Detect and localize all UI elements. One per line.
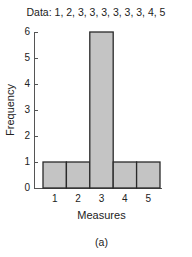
y-axis-label: Frequency	[4, 84, 16, 136]
x-tick-label: 5	[138, 193, 158, 204]
y-tick-label: 0	[18, 182, 30, 193]
histogram-bar	[66, 162, 89, 188]
x-axis-label: Measures	[43, 209, 160, 221]
x-tick-label: 4	[115, 193, 135, 204]
y-tick-label: 5	[18, 52, 30, 63]
histogram-bar	[137, 162, 160, 188]
histogram-bar	[90, 32, 113, 188]
histogram-bar	[113, 162, 136, 188]
y-tick-label: 2	[18, 130, 30, 141]
y-tick-label: 1	[18, 156, 30, 167]
x-tick-label: 3	[92, 193, 112, 204]
y-tick-label: 6	[18, 26, 30, 37]
x-tick-label: 1	[45, 193, 65, 204]
figure-caption: (a)	[43, 236, 160, 248]
y-tick-label: 3	[18, 104, 30, 115]
y-tick-label: 4	[18, 78, 30, 89]
histogram-bar	[43, 162, 66, 188]
x-tick-label: 2	[68, 193, 88, 204]
bars	[43, 32, 160, 188]
